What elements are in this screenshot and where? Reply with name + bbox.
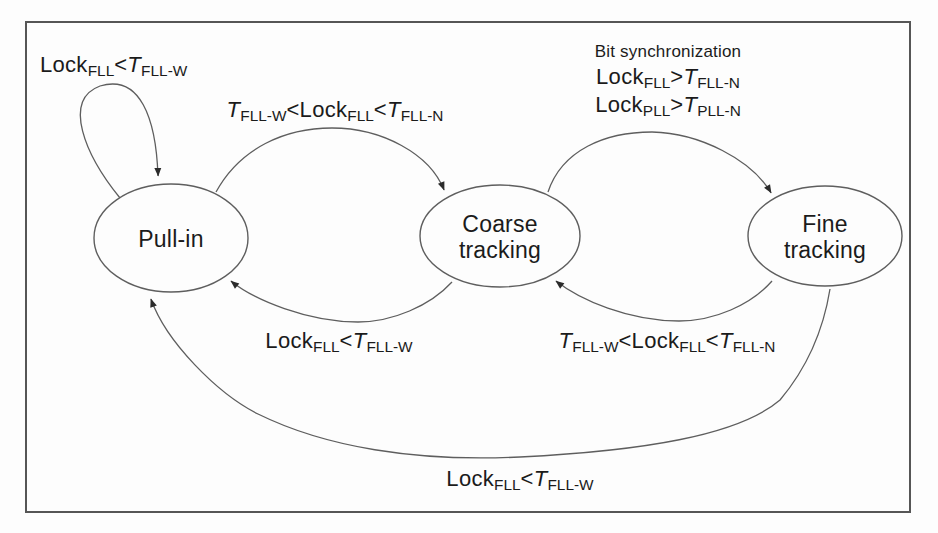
state-label-pull-in: Pull-in [110,226,232,252]
transition-arrow-pull-in-self-loop [80,84,158,198]
transition-label-coarse-to-fine: Bit synchronization LockFLL>TFLL-N LockP… [595,42,741,120]
transition-arrow-coarse-to-fine [548,132,771,193]
transition-label-fine-to-pull-in: LockFLL<TFLL-W [446,466,593,494]
transition-label-pull-in-self-loop: LockFLL<TFLL-W [40,52,187,80]
transition-arrow-pull-in-to-coarse [216,128,444,192]
state-label-fine-tracking: Fine tracking [769,211,881,264]
figure: Pull-in Coarse tracking Fine tracking Lo… [0,0,938,533]
bit-sync-heading: Bit synchronization [595,42,741,62]
state-label-coarse-tracking: Coarse tracking [444,211,556,264]
bit-sync-condition-2: LockPLL>TPLL-N [595,92,741,120]
transition-label-fine-to-coarse: TFLL-W<LockFLL<TFLL-N [559,328,776,356]
transition-label-pull-in-to-coarse: TFLL-W<LockFLL<TFLL-N [227,97,444,125]
transition-label-coarse-to-pull-in: LockFLL<TFLL-W [265,328,412,356]
transition-arrow-coarse-to-pull-in [231,281,452,322]
transition-arrow-fine-to-pull-in [151,289,830,458]
diagram-canvas [0,0,938,533]
bit-sync-condition-1: LockFLL>TFLL-N [595,64,741,92]
transition-arrow-fine-to-coarse [556,281,772,321]
